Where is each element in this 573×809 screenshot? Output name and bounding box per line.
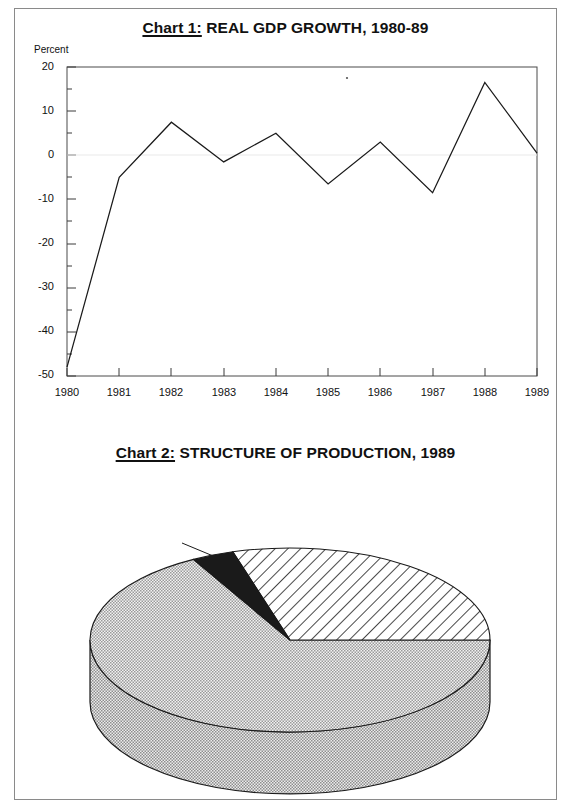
chart-1-ytick-20: 20 (20, 60, 54, 72)
chart-1-xtick-1989: 1989 (515, 386, 559, 398)
manufacturing-leader-line (182, 543, 218, 558)
chart-1-plot-area (14, 8, 557, 423)
document-page: Chart 1: REAL GDP GROWTH, 1980-89 Percen… (0, 0, 573, 809)
chart-2-title: Chart 2: STRUCTURE OF PRODUCTION, 1989 (14, 444, 557, 462)
chart-1-xtick-1986: 1986 (358, 386, 402, 398)
chart-2-pie-area (14, 440, 557, 800)
chart-1-y-minor-ticks (67, 89, 72, 354)
chart-1-ytick-neg30: -30 (20, 280, 54, 292)
chart-1-xtick-1984: 1984 (254, 386, 298, 398)
chart-1-xtick-1980: 1980 (45, 386, 89, 398)
chart-1-real-gdp-growth: Chart 1: REAL GDP GROWTH, 1980-89 Percen… (14, 8, 557, 423)
chart-1-ytick-neg10: -10 (20, 192, 54, 204)
chart-1-plot-frame (67, 67, 537, 376)
chart-1-ytick-neg20: -20 (20, 236, 54, 248)
chart-1-xtick-1981: 1981 (97, 386, 141, 398)
chart-1-ytick-neg40: -40 (20, 324, 54, 336)
chart-1-title: Chart 1: REAL GDP GROWTH, 1980-89 (14, 19, 557, 37)
chart-2-title-rest: STRUCTURE OF PRODUCTION, 1989 (175, 444, 455, 461)
scan-speck-artifact (346, 77, 348, 79)
chart-1-xtick-1985: 1985 (306, 386, 350, 398)
chart-1-ytick-0: 0 (20, 148, 54, 160)
chart-1-ytick-10: 10 (20, 104, 54, 116)
chart-1-xtick-1988: 1988 (463, 386, 507, 398)
chart-1-title-rest: REAL GDP GROWTH, 1980-89 (202, 19, 429, 36)
chart-1-xtick-1982: 1982 (149, 386, 193, 398)
chart-2-title-prefix: Chart 2: (116, 444, 175, 461)
chart-1-ytick-neg50: -50 (20, 368, 54, 380)
chart-1-title-prefix: Chart 1: (142, 19, 201, 36)
chart-1-xtick-1983: 1983 (202, 386, 246, 398)
chart-1-data-line (67, 82, 537, 367)
chart-1-x-ticks (67, 368, 537, 376)
chart-1-xtick-1987: 1987 (411, 386, 455, 398)
chart-2-structure-of-production: Chart 2: STRUCTURE OF PRODUCTION, 1989 (14, 440, 557, 800)
chart-1-y-axis-unit: Percent (34, 44, 68, 55)
